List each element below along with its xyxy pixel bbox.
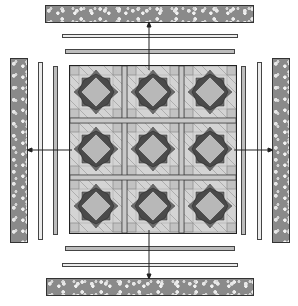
assembly-arrows: [0, 0, 298, 306]
